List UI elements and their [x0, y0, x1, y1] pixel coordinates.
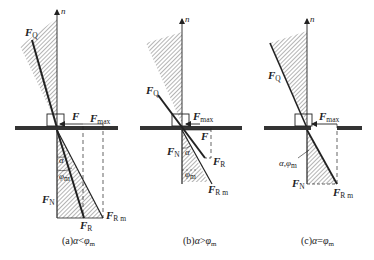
label-alpha: α: [59, 155, 64, 165]
label-alpha: α: [185, 147, 190, 157]
panel-a: n FQ F Fmax α φm FN FR FR m (a)α<φm: [15, 6, 126, 248]
label-fmax: Fmax: [89, 112, 111, 126]
label-f: F: [200, 130, 209, 142]
friction-cone-diagram: n FQ F Fmax α φm FN FR FR m (a)α<φm n FQ…: [0, 0, 374, 260]
label-fr: FR: [79, 219, 92, 233]
label-fq: FQ: [267, 69, 281, 83]
label-n: n: [61, 6, 66, 16]
label-fn: FN: [166, 145, 180, 159]
ground-surface: [15, 126, 118, 130]
panel-b: n FQ Fmax F FN α φm FR FR m (b)α>φm: [140, 14, 242, 248]
caption-c: (c)α=φm: [301, 235, 335, 248]
ground-surface: [264, 126, 311, 130]
label-fn: FN: [291, 177, 305, 191]
label-frm: FR m: [207, 183, 228, 197]
label-fq: FQ: [145, 84, 159, 98]
label-fn: FN: [41, 193, 55, 207]
caption-b: (b)α>φm: [183, 235, 217, 248]
label-fq: FQ: [24, 26, 38, 40]
upper-hatched-wedge: [146, 32, 182, 124]
ground-surface: [140, 126, 242, 130]
label-fr: FR: [212, 155, 225, 169]
label-f: F: [71, 110, 80, 122]
label-frm: FR m: [105, 209, 126, 223]
label-n: n: [185, 14, 190, 24]
label-n: n: [310, 14, 315, 24]
label-fmax: Fmax: [318, 110, 340, 124]
caption-a: (a)α<φm: [62, 235, 96, 248]
label-alpha-phi: α,φm: [279, 158, 297, 170]
label-fmax: Fmax: [192, 110, 214, 124]
ground-surface-right: [337, 126, 362, 130]
label-frm: FR m: [332, 186, 353, 200]
panel-c: n FQ Fmax α,φm FN FR m (c)α=φm: [264, 14, 362, 248]
